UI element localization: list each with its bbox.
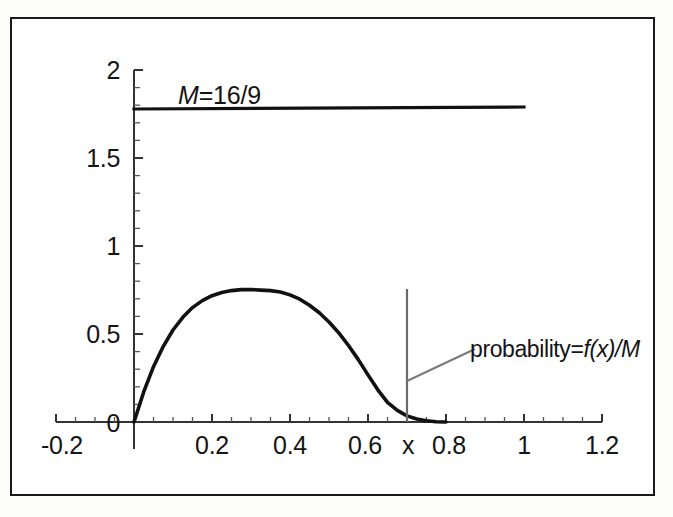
probability-annotation-formula: f(x)/M: [583, 336, 639, 362]
density-curve: [134, 290, 446, 423]
probability-annotation-prefix: probability=: [470, 336, 583, 362]
x-tick-label-0-8: 0.8: [432, 431, 466, 460]
y-tick-label-1: 1: [12, 232, 120, 261]
probability-leader-line: [407, 349, 475, 381]
threshold-annotation-symbol: M: [178, 81, 199, 109]
x-tick-label-0-2: 0.2: [195, 431, 229, 460]
threshold-annotation-value: =16/9: [199, 81, 261, 109]
x-tick-label-0-4: 0.4: [273, 431, 307, 460]
y-tick-label-1-5: 1.5: [12, 144, 120, 173]
y-tick-label-0-5: 0.5: [12, 320, 120, 349]
probability-annotation-label: probability=f(x)/M: [470, 336, 640, 363]
x-tick-label-1-2: 1.2: [585, 431, 619, 460]
y-tick-label-2: 2: [12, 56, 120, 85]
figure-root: M=16/9 probability=f(x)/M 2 1.5 1 0.5 0 …: [0, 0, 673, 517]
threshold-annotation-label: M=16/9: [178, 81, 261, 110]
y-axis: [134, 70, 143, 449]
x-marker-label: x: [402, 431, 414, 460]
x-tick-label-1: 1: [517, 431, 531, 460]
figure-border-frame: M=16/9 probability=f(x)/M 2 1.5 1 0.5 0 …: [10, 17, 655, 496]
x-tick-label-neg-0-2: -0.2: [41, 431, 83, 460]
x-tick-label-0-6: 0.6: [348, 431, 382, 460]
